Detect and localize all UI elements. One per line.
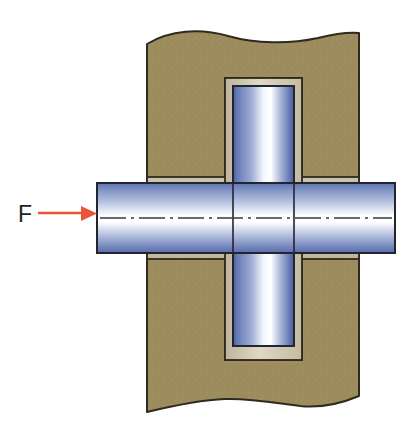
diagram-canvas: F <box>0 0 418 439</box>
force-arrow-head <box>81 206 97 221</box>
force-arrow <box>38 206 97 221</box>
force-label: F <box>18 201 32 227</box>
technical-diagram-figure: F <box>0 0 418 439</box>
